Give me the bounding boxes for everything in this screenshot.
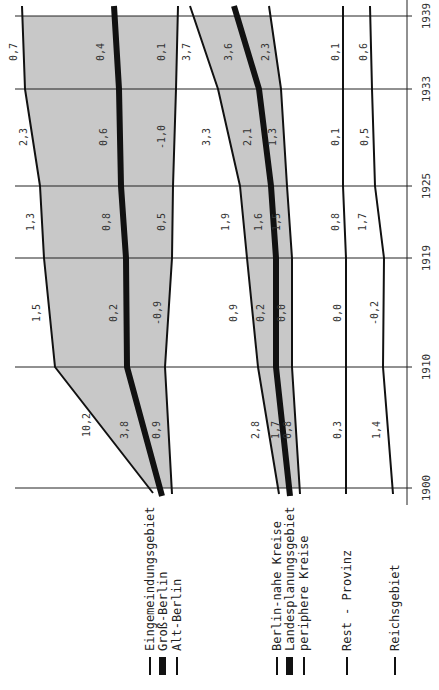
value-label: 10,2 [81, 413, 92, 437]
growth-rate-chart: 0,7 2,3 1,3 1,5 10,2 0,4 0,6 0,8 0,2 3,8… [0, 0, 439, 690]
value-label: -0,9 [152, 301, 163, 325]
value-label: 0,2 [255, 304, 266, 322]
value-label: 0,6 [98, 128, 109, 146]
value-label: 0,3 [332, 421, 343, 439]
value-label: 0,4 [95, 43, 106, 61]
legend-label: Groß-Berlin [156, 572, 170, 651]
value-label: 0,9 [151, 421, 162, 439]
legend-label: Rest - Provinz [340, 550, 354, 651]
value-label: 0,0 [332, 304, 343, 322]
value-label: 0,1 [330, 128, 341, 146]
value-label: 0,1 [330, 43, 341, 61]
value-label: -0,2 [369, 301, 380, 325]
line-rest-provinz [343, 6, 346, 494]
value-label: 2,1 [242, 128, 253, 146]
year-label: 1910 [420, 354, 433, 381]
value-label: 0,8 [282, 421, 293, 439]
value-label: 0,8 [330, 213, 341, 231]
value-label: 0,5 [359, 128, 370, 146]
value-label: 0,6 [358, 43, 369, 61]
value-label: 3,7 [181, 43, 192, 61]
value-label: 3,8 [119, 421, 130, 439]
legend-label: Berlin-nahe Kreise [270, 521, 284, 651]
legend: Eingemeindungsgebiet Groß-Berlin Alt-Ber… [143, 507, 402, 676]
legend-swatch-thin [303, 657, 305, 675]
year-labels: 1939 1933 1925 1919 1910 1900 [420, 3, 433, 502]
legend-swatch-thin [149, 657, 151, 675]
legend-label: Eingemeindungsgebiet [143, 507, 157, 652]
value-label: 1,7 [357, 213, 368, 231]
value-label: 1,5 [271, 213, 282, 231]
value-label: 2,3 [18, 128, 29, 146]
value-label: 1,7 [270, 421, 281, 439]
berlin-band [22, 16, 178, 488]
legend-swatch-thin [346, 657, 348, 675]
year-label: 1925 [420, 173, 433, 200]
legend-label: Landesplanungsgebiet [283, 507, 297, 652]
year-label: 1933 [420, 76, 433, 103]
value-label: 0,1 [156, 43, 167, 61]
legend-swatch-thick [286, 657, 293, 675]
legend-swatch-thick [159, 657, 166, 675]
value-label: 0,5 [156, 213, 167, 231]
value-label: 0,9 [228, 304, 239, 322]
value-label: -1,0 [156, 125, 167, 149]
legend-swatch-thin [176, 657, 178, 675]
line-reichsgebiet [370, 6, 393, 494]
value-label: 0,7 [8, 43, 19, 61]
year-label: 1939 [420, 3, 433, 30]
value-label: 2,8 [250, 421, 261, 439]
year-label: 1900 [420, 475, 433, 502]
value-label: 3,6 [223, 43, 234, 61]
value-label: 1,5 [31, 304, 42, 322]
value-label: 1,3 [267, 128, 278, 146]
value-label: 1,4 [371, 421, 382, 439]
year-label: 1919 [420, 245, 433, 272]
legend-label: periphere Kreise [297, 535, 311, 651]
value-label: 0,8 [101, 213, 112, 231]
value-label: 1,6 [253, 213, 264, 231]
legend-label: Reichsgebiet [388, 564, 402, 651]
legend-swatch-thin [276, 657, 278, 675]
value-label: 1,9 [220, 213, 231, 231]
value-label: 3,3 [201, 128, 212, 146]
value-label: 0,2 [108, 304, 119, 322]
value-label: 2,3 [260, 43, 271, 61]
legend-swatch-thin [394, 657, 396, 675]
value-label: 0,0 [276, 304, 287, 322]
legend-label: Alt-Berlin [170, 579, 184, 651]
value-label: 1,3 [25, 213, 36, 231]
